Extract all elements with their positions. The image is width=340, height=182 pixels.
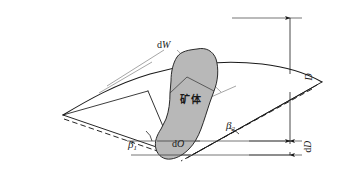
label-dO-variable: O [177,138,184,149]
label-dD-prefix: d [303,148,313,153]
cross-section-drawing [0,0,340,182]
label-D: D [304,73,314,80]
label-dW: dW [157,40,170,50]
label-beta2: β2 [226,120,235,132]
label-beta1-subscript: 1 [133,144,136,151]
left-pit-wall-line [63,115,171,152]
label-dW-variable: W [162,39,170,50]
label-orebody: 矿体 [180,95,201,105]
beta1-angle-arc [146,131,152,141]
dw-leader-left-line [107,50,164,86]
label-dD-variable: D [303,141,313,148]
label-beta1: β1 [128,139,137,151]
diagram-canvas: dW 矿体 dO β1 β2 D dD [0,0,340,182]
label-dO: dO [172,139,184,149]
label-beta2-subscript: 2 [231,125,234,132]
left-crest-line [63,91,148,115]
dw-band-upper-line [99,62,152,93]
label-dD: dD [304,141,314,153]
